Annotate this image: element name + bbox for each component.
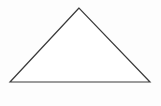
triangle-shape: [10, 8, 150, 82]
diagram-canvas: [0, 0, 161, 106]
triangle-diagram: [0, 0, 161, 106]
